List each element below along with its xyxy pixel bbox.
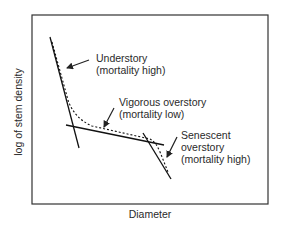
senescent-label: Senescent overstory (mortality high)	[181, 129, 250, 165]
understory-label-line1: Understory	[96, 52, 165, 64]
understory-line	[50, 37, 79, 148]
vigorous-label: Vigorous overstory (mortality low)	[119, 96, 206, 120]
vigorous-overstory-line	[66, 125, 164, 145]
senescent-arrow	[167, 137, 177, 157]
understory-arrow	[67, 60, 89, 68]
understory-label: Understory (mortality high)	[96, 52, 165, 76]
understory-label-line2: (mortality high)	[96, 64, 165, 76]
vigorous-label-line2: (mortality low)	[119, 108, 206, 120]
senescent-label-line1: Senescent	[181, 129, 250, 141]
senescent-label-line3: (mortality high)	[181, 153, 250, 165]
senescent-label-line2: overstory	[181, 141, 250, 153]
y-axis-label: log of stem density	[12, 68, 24, 156]
senescent-line	[143, 133, 171, 179]
x-axis-label: Diameter	[129, 208, 172, 220]
vigorous-label-line1: Vigorous overstory	[119, 96, 206, 108]
vigorous-arrow	[104, 108, 114, 127]
